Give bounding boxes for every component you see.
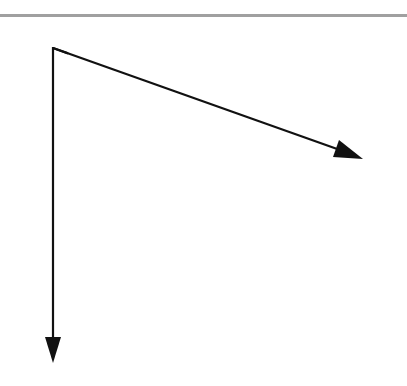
diagonal-vector-arrow (53, 48, 363, 159)
vector-diagram (0, 0, 407, 386)
diagonal-arrowhead-icon (333, 140, 363, 159)
diagonal-vector-shaft (53, 48, 340, 150)
vertical-vector-arrow (45, 47, 61, 363)
vertical-arrowhead-icon (45, 337, 61, 363)
origin-corner (53, 48, 68, 53)
